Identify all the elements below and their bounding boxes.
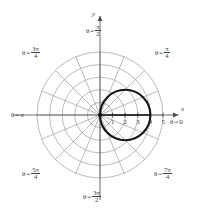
angle-fraction: 7π4 <box>163 167 172 181</box>
theta-symbol: θ <box>83 193 86 201</box>
x-axis-label: x <box>181 106 184 113</box>
angle-label-theta-pi-2: θ=π2 <box>86 24 101 38</box>
angle-label-theta-5pi-4: θ=5π4 <box>22 167 40 181</box>
equals-symbol: = <box>158 170 162 178</box>
spoke-225 <box>55 115 100 160</box>
theta-symbol: θ <box>22 49 25 57</box>
angle-label-theta-3pi-2: θ=3π2 <box>83 190 101 204</box>
fraction-denominator: 4 <box>164 53 169 60</box>
angle-fraction: 3π2 <box>92 190 101 204</box>
angle-fraction: π2 <box>95 24 100 38</box>
angle-label-theta-3pi-4: θ=3π4 <box>22 46 40 60</box>
radial-tick-label-4: 4 <box>146 119 154 126</box>
fraction-denominator: 4 <box>163 174 172 181</box>
origin-pole-marker <box>98 113 102 117</box>
theta-symbol: θ <box>155 49 158 57</box>
radial-tick-label-1: 1 <box>109 119 117 126</box>
fraction-denominator: 4 <box>31 174 40 181</box>
angle-label-theta-7pi-4: θ=7π4 <box>154 167 172 181</box>
angle-value: π <box>20 111 24 119</box>
radial-tick-label-3: 3 <box>134 119 142 126</box>
equals-symbol: = <box>174 118 178 126</box>
equals-symbol: = <box>90 27 94 35</box>
fraction-denominator: 2 <box>92 197 101 204</box>
theta-symbol: θ <box>11 111 14 119</box>
angle-value: 0 <box>179 118 183 126</box>
polar-plot-canvas <box>0 0 203 216</box>
radial-tick-label-2: 2 <box>121 119 129 126</box>
radial-tick-label-5: 5 <box>159 119 167 126</box>
angle-fraction: 3π4 <box>31 46 40 60</box>
angle-label-theta-pi-4: θ=π4 <box>155 46 170 60</box>
angle-label-theta-pi: θ=π <box>11 112 24 119</box>
angle-fraction: π4 <box>164 46 169 60</box>
theta-symbol: θ <box>86 27 89 35</box>
fraction-denominator: 2 <box>95 31 100 38</box>
equals-symbol: = <box>26 170 30 178</box>
theta-symbol: θ <box>170 118 173 126</box>
theta-symbol: θ <box>22 170 25 178</box>
angle-label-theta-0: θ=0 <box>170 119 183 126</box>
equals-symbol: = <box>159 49 163 57</box>
polar-plot-figure: 1 2 3 4 5 x y θ=0 θ=π4 θ=π2 θ=3π4 θ=π θ=… <box>0 0 203 216</box>
theta-symbol: θ <box>154 170 157 178</box>
equals-symbol: = <box>26 49 30 57</box>
equals-symbol: = <box>87 193 91 201</box>
angle-fraction: 5π4 <box>31 167 40 181</box>
y-axis-label: y <box>92 11 95 18</box>
spoke-135 <box>55 70 100 115</box>
equals-symbol: = <box>15 111 19 119</box>
fraction-denominator: 4 <box>31 53 40 60</box>
